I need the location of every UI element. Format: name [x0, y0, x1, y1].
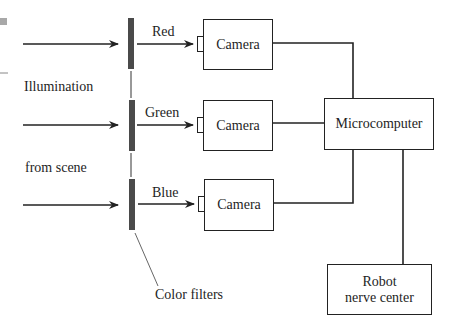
corner-mark: [0, 18, 7, 25]
green-label: Green: [145, 105, 179, 121]
from-scene-label: from scene: [25, 160, 87, 176]
link-red-camera-micro: [272, 43, 353, 99]
red-label: Red: [152, 24, 175, 40]
blue-filter: [129, 179, 135, 230]
robot-nerve-center-box: Robot nerve center: [327, 264, 432, 315]
robot-label-line2: nerve center: [345, 290, 414, 306]
illumination-label: Illumination: [24, 79, 93, 95]
link-blue-camera-micro: [273, 149, 353, 203]
green-filter: [129, 100, 135, 151]
red-filter: [128, 18, 134, 69]
microcomputer-box: Microcomputer: [324, 98, 434, 150]
filters-leader-line: [135, 233, 158, 286]
camera-green: Camera: [203, 100, 273, 151]
color-filters-label: Color filters: [155, 287, 223, 303]
robot-label-line1: Robot: [362, 274, 396, 290]
camera-blue: Camera: [204, 179, 274, 231]
camera-red: Camera: [203, 19, 273, 70]
blue-label: Blue: [152, 185, 178, 201]
